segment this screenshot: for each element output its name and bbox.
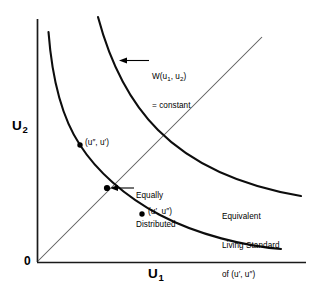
x-axis-title-subscript: 1 <box>158 272 163 283</box>
equivalent-living-standard-line3: of (u′, u″) <box>222 270 280 280</box>
equivalent-living-standard-annotation: Equivalent Living Standard of (u′, u″) <box>222 193 280 291</box>
equivalent-living-standard-line1: Equivalent <box>222 212 280 222</box>
welfare-sub1: 1 <box>167 75 171 82</box>
equivalent-living-standard-line2: Living Standard <box>222 241 280 251</box>
x-axis-title: U1 <box>148 266 163 282</box>
equally-distributed-line2: Distributed <box>136 220 176 230</box>
equally-distributed-line1: Equally <box>136 191 176 201</box>
y-axis-title-text: U <box>12 118 22 133</box>
y-axis-title: U2 <box>12 118 27 134</box>
welfare-annotation-line2: = constant <box>152 101 191 111</box>
x-axis-title-text: U <box>148 266 158 281</box>
outer-indifference-curve <box>98 17 301 196</box>
welfare-sub2: 2 <box>180 75 184 82</box>
point-lower-label: (u′, u″) <box>148 207 172 217</box>
welfare-mid: , u <box>171 72 180 81</box>
welfare-diagram-figure: U2 U1 0 W(u1, u2) = constant Equally Dis… <box>0 0 321 291</box>
point-upper-label: (u″, u′) <box>85 138 109 148</box>
point-upper-marker <box>77 142 82 147</box>
origin-label: 0 <box>24 254 31 268</box>
point-equally-distributed-marker <box>104 185 110 191</box>
welfare-suffix: ) <box>183 72 186 81</box>
welfare-annotation-arrow <box>119 58 149 64</box>
welfare-annotation-line1: W(u1, u2) <box>152 72 191 82</box>
welfare-prefix: W(u <box>152 72 167 81</box>
welfare-function-annotation: W(u1, u2) = constant <box>152 53 191 130</box>
y-axis-title-subscript: 2 <box>22 124 27 135</box>
